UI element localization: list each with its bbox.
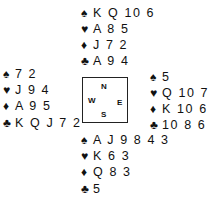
north-diamonds: ♦J 7 2 — [81, 38, 128, 52]
diamond-icon: ♦ — [81, 38, 93, 52]
compass-west-label: W — [88, 96, 96, 105]
spade-icon: ♠ — [3, 67, 15, 81]
heart-icon: ♥ — [81, 149, 93, 163]
compass-box: N W E S — [82, 77, 128, 123]
spade-icon: ♠ — [81, 6, 93, 20]
club-icon: ♣ — [3, 116, 15, 130]
south-spades: ♠A J 9 8 4 3 — [81, 133, 170, 147]
north-hearts: ♥A 8 5 — [81, 22, 130, 36]
north-clubs: ♣A 9 4 — [81, 54, 130, 68]
south-hearts: ♥K 6 3 — [81, 149, 130, 163]
spade-icon: ♠ — [81, 133, 93, 147]
diamond-icon: ♦ — [3, 99, 15, 113]
east-clubs: ♣10 8 6 3 — [150, 118, 208, 132]
heart-icon: ♥ — [3, 83, 15, 97]
east-spades: ♠5 — [150, 70, 171, 84]
south-clubs: ♣5 — [81, 182, 102, 196]
west-diamonds: ♦A 9 5 — [3, 99, 52, 113]
north-spades: ♠K Q 10 6 — [81, 6, 155, 20]
heart-icon: ♥ — [81, 22, 93, 36]
east-hearts: ♥Q 10 7 2 — [150, 86, 208, 100]
compass-north-label: N — [101, 82, 107, 91]
west-clubs: ♣K Q J 7 2 — [3, 116, 82, 130]
spade-icon: ♠ — [150, 70, 162, 84]
south-diamonds: ♦Q 8 3 — [81, 165, 132, 179]
club-icon: ♣ — [81, 182, 93, 196]
diamond-icon: ♦ — [150, 102, 162, 116]
club-icon: ♣ — [150, 118, 162, 132]
club-icon: ♣ — [81, 54, 93, 68]
east-diamonds: ♦K 10 6 4 — [150, 102, 208, 116]
compass-south-label: S — [101, 110, 106, 119]
diamond-icon: ♦ — [81, 165, 93, 179]
west-spades: ♠7 2 — [3, 67, 37, 81]
west-hearts: ♥J 9 4 — [3, 83, 50, 97]
compass-east-label: E — [117, 98, 122, 107]
heart-icon: ♥ — [150, 86, 162, 100]
